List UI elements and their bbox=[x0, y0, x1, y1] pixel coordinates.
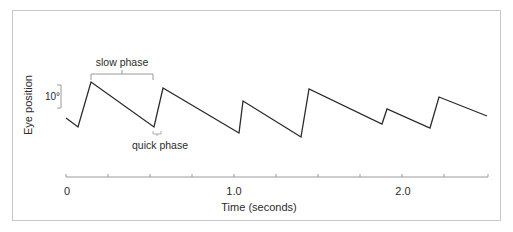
quick-phase-annotation: quick phase bbox=[132, 131, 188, 151]
scale-bar-label: 10° bbox=[45, 91, 60, 102]
slow-phase-annotation: slow phase bbox=[91, 56, 153, 80]
x-axis: 0 1.0 2.0 Time (seconds) bbox=[64, 174, 488, 213]
scale-bar: 10° bbox=[45, 85, 61, 108]
slow-phase-label: slow phase bbox=[96, 56, 149, 68]
x-tick-label-1: 1.0 bbox=[226, 185, 241, 197]
nystagmus-chart: Eye position 10° slow phase quick phase … bbox=[0, 0, 513, 232]
eye-position-trace bbox=[66, 82, 487, 137]
x-axis-label: Time (seconds) bbox=[221, 201, 296, 213]
quick-phase-label: quick phase bbox=[132, 139, 188, 151]
x-tick-label-0: 0 bbox=[64, 185, 70, 197]
y-axis-label: Eye position bbox=[22, 75, 34, 135]
x-tick-label-2: 2.0 bbox=[395, 185, 410, 197]
